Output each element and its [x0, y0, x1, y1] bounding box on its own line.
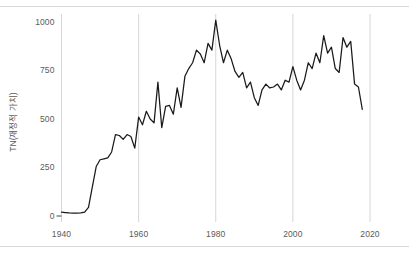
x-tick-label-1980: 1980 [196, 229, 236, 239]
x-tick-label-2000: 2000 [273, 229, 313, 239]
x-tick-label-2020: 2020 [350, 229, 390, 239]
data-line-series [62, 20, 363, 213]
y-axis-title: TN(재정적 가치) [6, 89, 18, 155]
y-tick-label-1000: 1000 [21, 17, 55, 27]
y-tick-label-500: 500 [21, 114, 55, 124]
y-tick-label-750: 750 [21, 65, 55, 75]
line-chart-plot [0, 0, 409, 253]
chart-figure: TN(재정적 가치) 10007505002500 19401960198020… [0, 0, 409, 253]
x-tick-label-1940: 1940 [42, 229, 82, 239]
gridlines [62, 14, 371, 222]
y-tick-label-0: 0 [21, 211, 55, 221]
y-tick-label-250: 250 [21, 162, 55, 172]
x-tick-label-1960: 1960 [119, 229, 159, 239]
